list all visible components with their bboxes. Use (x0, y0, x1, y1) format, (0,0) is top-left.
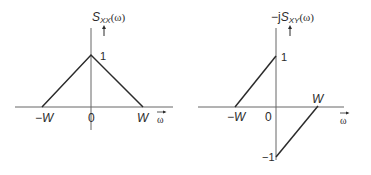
left-x-axis-label: ω (157, 114, 164, 125)
right-x-axis-label: ω (340, 115, 347, 126)
left-peak-label: 1 (100, 50, 106, 62)
right-up-arrow-icon (288, 25, 292, 36)
right-title: −jSXY(ω) (271, 10, 314, 25)
right-lower-segment (276, 106, 318, 157)
left-title: SXX(ω) (92, 10, 126, 25)
left-title-arg: (ω) (111, 11, 126, 24)
right-bottom-label: −1 (262, 151, 275, 163)
left-title-symbol: S (92, 10, 100, 24)
left-plot: SXX(ω) 1 −W 0 W ω (15, 10, 173, 130)
left-tick-zero: 0 (88, 111, 95, 125)
left-tick-w: W (137, 111, 150, 125)
right-tick-w: W (312, 92, 325, 106)
right-title-prefix: −j (271, 10, 281, 24)
figure: SXX(ω) 1 −W 0 W ω −jSXY(ω) (0, 0, 371, 175)
left-tick-neg-w: −W (35, 111, 55, 125)
right-tick-zero: 0 (265, 110, 272, 124)
right-title-subscript: XY (288, 16, 300, 25)
right-top-label: 1 (281, 51, 287, 63)
right-tick-neg-w: −W (227, 110, 247, 124)
right-title-symbol: S (281, 10, 289, 24)
left-up-arrow-icon (102, 25, 106, 36)
right-title-arg: (ω) (299, 11, 314, 24)
left-triangle-curve (42, 55, 143, 107)
right-plot: −jSXY(ω) 1 −1 −W 0 W ω (198, 10, 350, 163)
left-title-subscript: XX (99, 16, 111, 25)
right-upper-segment (235, 56, 276, 107)
